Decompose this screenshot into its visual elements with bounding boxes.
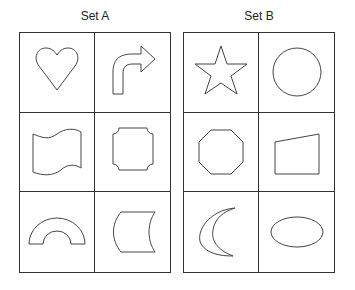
arch-icon [27,202,87,262]
set-b-cell-2 [259,33,334,113]
set-a-cell-3 [20,113,95,193]
wavy-flag-icon [27,122,87,182]
set-a-cell-1 [20,33,95,113]
set-b-cell-5 [184,192,259,272]
set-a-title: Set A [19,9,171,23]
curved-arrow-right-icon [103,42,163,102]
trapezoid-icon [267,122,327,182]
concave-rectangle-icon [103,202,163,262]
set-a-grid [19,32,171,273]
circle-icon [267,42,327,102]
heart-icon [27,42,87,102]
ellipse-icon [267,202,327,262]
set-a-cell-4 [95,113,170,193]
notched-rectangle-icon [103,122,163,182]
set-b-cell-4 [259,113,334,193]
set-a-cell-5 [20,192,95,272]
set-b-cell-6 [259,192,334,272]
set-a-cell-6 [95,192,170,272]
star-icon [191,42,251,102]
set-b-grid [183,32,335,273]
set-b-cell-3 [184,113,259,193]
octagon-icon [191,122,251,182]
set-b-cell-1 [184,33,259,113]
set-a-cell-2 [95,33,170,113]
crescent-icon [191,202,251,262]
set-b-title: Set B [183,9,335,23]
